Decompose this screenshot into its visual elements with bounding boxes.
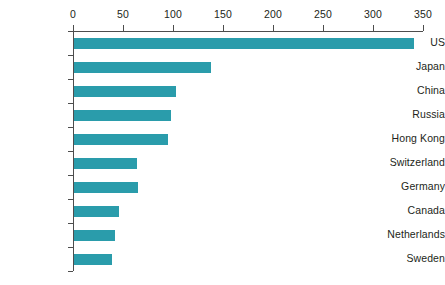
bar-china	[74, 86, 176, 97]
bar-hong-kong	[74, 134, 168, 145]
y-tick-6	[68, 175, 73, 176]
x-tick-50	[123, 25, 124, 31]
category-label-china: China	[377, 84, 445, 96]
bar-chart: 050100150200250300350 USJapanChinaRussia…	[0, 0, 445, 285]
category-label-russia: Russia	[377, 108, 445, 120]
x-tick-label-100: 100	[153, 8, 193, 20]
x-tick-label-0: 0	[53, 8, 93, 20]
y-tick-0	[68, 31, 73, 32]
category-label-japan: Japan	[377, 60, 445, 72]
category-label-sweden: Sweden	[377, 252, 445, 264]
x-tick-350	[423, 25, 424, 31]
bar-canada	[74, 206, 119, 217]
bar-sweden	[74, 254, 112, 265]
x-axis-line	[73, 31, 423, 32]
bar-us	[74, 38, 414, 49]
y-tick-1	[68, 55, 73, 56]
x-tick-label-300: 300	[353, 8, 393, 20]
y-tick-2	[68, 79, 73, 80]
y-tick-4	[68, 127, 73, 128]
y-tick-8	[68, 223, 73, 224]
category-label-germany: Germany	[377, 180, 445, 192]
x-tick-150	[223, 25, 224, 31]
bar-germany	[74, 182, 138, 193]
category-label-hong-kong: Hong Kong	[377, 132, 445, 144]
y-tick-5	[68, 151, 73, 152]
x-tick-250	[323, 25, 324, 31]
category-label-switzerland: Switzerland	[377, 156, 445, 168]
x-tick-label-50: 50	[103, 8, 143, 20]
x-tick-label-150: 150	[203, 8, 243, 20]
y-tick-9	[68, 247, 73, 248]
bar-russia	[74, 110, 171, 121]
bar-switzerland	[74, 158, 137, 169]
category-label-canada: Canada	[377, 204, 445, 216]
x-tick-0	[73, 25, 74, 31]
y-tick-10	[68, 271, 73, 272]
x-tick-label-350: 350	[403, 8, 443, 20]
x-tick-100	[173, 25, 174, 31]
bar-netherlands	[74, 230, 115, 241]
x-tick-label-250: 250	[303, 8, 343, 20]
x-tick-label-200: 200	[253, 8, 293, 20]
x-tick-300	[373, 25, 374, 31]
category-label-netherlands: Netherlands	[377, 228, 445, 240]
bar-japan	[74, 62, 211, 73]
y-tick-3	[68, 103, 73, 104]
y-tick-7	[68, 199, 73, 200]
x-tick-200	[273, 25, 274, 31]
